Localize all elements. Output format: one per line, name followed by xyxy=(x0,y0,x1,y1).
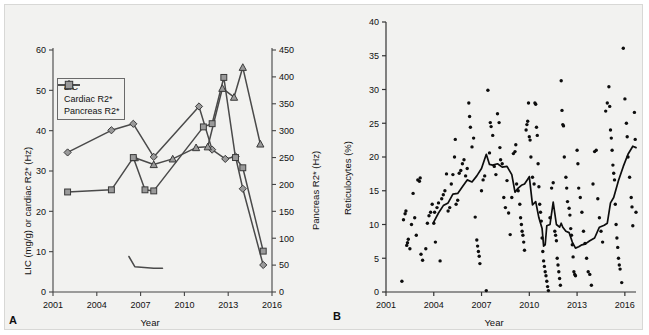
svg-text:15: 15 xyxy=(369,186,379,196)
panel-b-letter: B xyxy=(333,310,341,322)
svg-text:450: 450 xyxy=(279,45,294,55)
legend-item-pancreas[interactable]: Pancreas R2* xyxy=(61,105,120,117)
svg-text:350: 350 xyxy=(279,99,294,109)
svg-text:200: 200 xyxy=(279,180,294,190)
svg-text:2013: 2013 xyxy=(218,300,238,310)
svg-text:2016: 2016 xyxy=(615,300,635,310)
svg-text:2010: 2010 xyxy=(174,300,194,310)
svg-text:150: 150 xyxy=(279,207,294,217)
panel-a-x-axis-label: Year xyxy=(110,317,190,328)
panel-b-plot: 0510152025303540200120042007201020132016 xyxy=(324,0,649,335)
svg-text:40: 40 xyxy=(369,17,379,27)
panel-a-plot: 0102030405060050100150200250300350400450… xyxy=(0,0,324,335)
panel-b-x-axis-label: Year xyxy=(454,317,534,328)
svg-text:30: 30 xyxy=(369,85,379,95)
panel-a-letter: A xyxy=(9,314,17,326)
panel-a-y-axis-label: LIC (mg/g) or cardiac R2* (Hz) xyxy=(22,147,33,275)
svg-text:50: 50 xyxy=(36,86,46,96)
svg-text:20: 20 xyxy=(369,152,379,162)
svg-text:35: 35 xyxy=(369,51,379,61)
legend-label-cardiac: Cardiac R2* xyxy=(64,94,113,104)
svg-text:2007: 2007 xyxy=(472,300,492,310)
square-marker-icon xyxy=(58,79,80,91)
svg-text:300: 300 xyxy=(279,126,294,136)
panel-b-y-axis-label: Reticulocytes (%) xyxy=(342,141,353,215)
svg-text:2016: 2016 xyxy=(262,300,282,310)
svg-text:100: 100 xyxy=(279,234,294,244)
svg-text:2013: 2013 xyxy=(567,300,587,310)
svg-text:2004: 2004 xyxy=(87,300,107,310)
svg-text:60: 60 xyxy=(36,45,46,55)
svg-text:0: 0 xyxy=(41,287,46,297)
svg-text:50: 50 xyxy=(279,260,289,270)
svg-text:2001: 2001 xyxy=(43,300,63,310)
panel-a-y-axis-right-label: Pancreas R2* (Hz) xyxy=(310,151,321,230)
svg-text:0: 0 xyxy=(279,287,284,297)
svg-text:20: 20 xyxy=(36,207,46,217)
svg-text:2001: 2001 xyxy=(376,300,396,310)
svg-text:2010: 2010 xyxy=(519,300,539,310)
svg-text:400: 400 xyxy=(279,72,294,82)
svg-text:10: 10 xyxy=(369,220,379,230)
svg-text:10: 10 xyxy=(36,247,46,257)
panel-a: 0102030405060050100150200250300350400450… xyxy=(0,0,324,335)
legend-label-pancreas: Pancreas R2* xyxy=(64,106,120,116)
legend-item-cardiac[interactable]: Cardiac R2* xyxy=(61,93,120,105)
svg-text:40: 40 xyxy=(36,126,46,136)
figure-container: 0102030405060050100150200250300350400450… xyxy=(0,0,649,335)
panel-b: 0510152025303540200120042007201020132016… xyxy=(324,0,649,335)
svg-text:0: 0 xyxy=(374,287,379,297)
svg-text:2007: 2007 xyxy=(131,300,151,310)
svg-text:25: 25 xyxy=(369,119,379,129)
svg-text:30: 30 xyxy=(36,166,46,176)
svg-text:5: 5 xyxy=(374,254,379,264)
svg-text:2004: 2004 xyxy=(424,300,444,310)
svg-text:250: 250 xyxy=(279,153,294,163)
panel-a-legend: LIC Cardiac R2* Pancreas R2* xyxy=(57,78,125,120)
